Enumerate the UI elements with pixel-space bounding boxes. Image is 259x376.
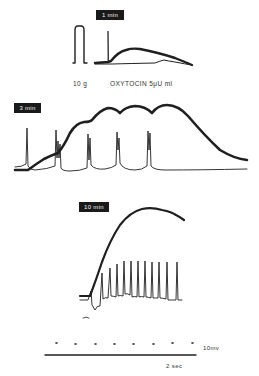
panel-10min-traces — [80, 208, 184, 318]
panel-3min-traces — [15, 105, 247, 171]
panel-1min-traces — [73, 26, 192, 65]
scale-bar — [45, 343, 196, 355]
spike-train-trace — [80, 261, 182, 310]
time-tag-10min: 10 min — [79, 202, 109, 212]
oxytocin-recording-figure: 1 min 10 g OXYTOCIN 5μU ml 3 min 10 min … — [0, 0, 259, 376]
time-scale-label: 2 sec — [166, 363, 182, 369]
figure-traces — [0, 0, 259, 376]
voltage-scale-label: 10mv — [203, 345, 219, 351]
baseline-tick — [83, 317, 89, 318]
stimulus-label: OXYTOCIN 5μU ml — [110, 80, 172, 87]
spike-trace — [108, 31, 109, 62]
time-tag-3min: 3 min — [14, 103, 41, 113]
time-tag-1min: 1 min — [96, 10, 124, 20]
calibration-pulse — [73, 26, 87, 63]
time-marks — [56, 343, 193, 344]
calibration-label: 10 g — [73, 80, 87, 87]
tension-trace — [15, 105, 247, 170]
membrane-trace — [15, 128, 247, 171]
